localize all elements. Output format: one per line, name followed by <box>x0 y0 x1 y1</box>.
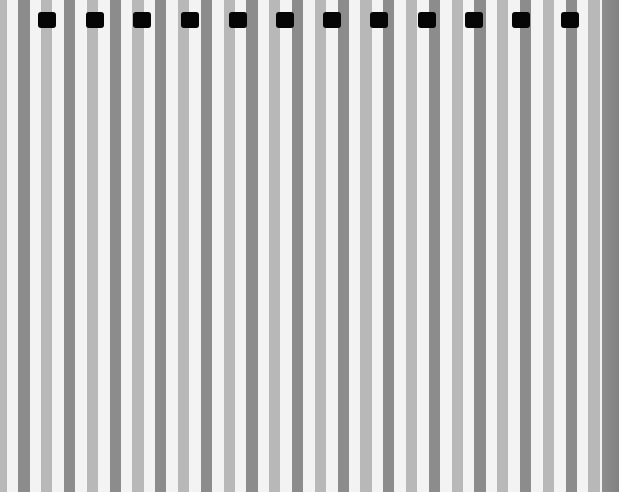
black-tab <box>370 12 388 28</box>
right-edge-shadow <box>602 0 619 492</box>
light-stripe <box>588 0 599 492</box>
dark-stripe <box>155 0 166 492</box>
black-tab <box>323 12 341 28</box>
dark-stripe <box>201 0 212 492</box>
light-stripe <box>497 0 508 492</box>
black-tab <box>86 12 104 28</box>
black-tab <box>276 12 294 28</box>
dark-stripe <box>338 0 349 492</box>
light-stripe <box>360 0 371 492</box>
light-stripe <box>452 0 463 492</box>
dark-stripe <box>292 0 303 492</box>
light-stripe <box>406 0 417 492</box>
black-tab <box>512 12 530 28</box>
dark-stripe <box>566 0 577 492</box>
dark-stripe <box>18 0 29 492</box>
light-stripe <box>224 0 235 492</box>
light-stripe <box>543 0 554 492</box>
light-stripe <box>87 0 98 492</box>
striped-surface-photo <box>0 0 619 492</box>
dark-stripe <box>429 0 440 492</box>
black-tab <box>418 12 436 28</box>
dark-stripe <box>520 0 531 492</box>
black-tab <box>561 12 579 28</box>
light-stripe <box>315 0 326 492</box>
dark-stripe <box>246 0 257 492</box>
light-stripe <box>41 0 52 492</box>
dark-stripe <box>64 0 75 492</box>
black-tab <box>133 12 151 28</box>
black-tab <box>181 12 199 28</box>
dark-stripe <box>383 0 394 492</box>
light-stripe <box>0 0 7 492</box>
black-tab <box>38 12 56 28</box>
light-stripe <box>132 0 143 492</box>
dark-stripe <box>474 0 485 492</box>
light-stripe <box>269 0 280 492</box>
dark-stripe <box>110 0 121 492</box>
light-stripe <box>178 0 189 492</box>
black-tab <box>229 12 247 28</box>
black-tab <box>465 12 483 28</box>
